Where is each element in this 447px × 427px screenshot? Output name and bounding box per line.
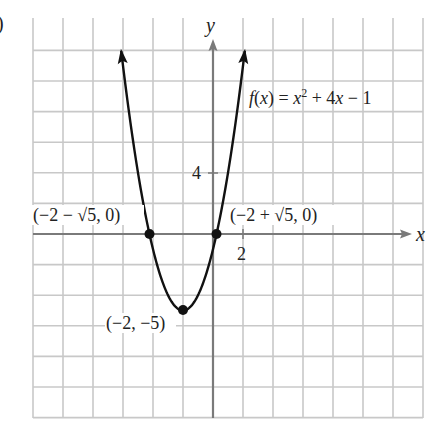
parabola-graph: ) y x 2 4 f(x) = x2 + 4x − 1 (−2 − √5, 0… [0, 0, 447, 427]
left-root-point [145, 229, 155, 239]
left-root-label: (−2 − √5, 0) [33, 205, 120, 226]
y-tick-label-4: 4 [192, 163, 201, 183]
vertex-point [178, 305, 188, 315]
corner-partial-paren: ) [0, 12, 4, 35]
function-label: f(x) = x2 + 4x − 1 [249, 86, 371, 109]
y-axis-label: y [204, 14, 215, 37]
right-root-point [212, 229, 222, 239]
right-root-label: (−2 + √5, 0) [230, 205, 317, 226]
x-axis-label: x [415, 223, 425, 245]
vertex-label: (−2, −5) [106, 313, 165, 334]
x-tick-label-2: 2 [237, 244, 246, 264]
